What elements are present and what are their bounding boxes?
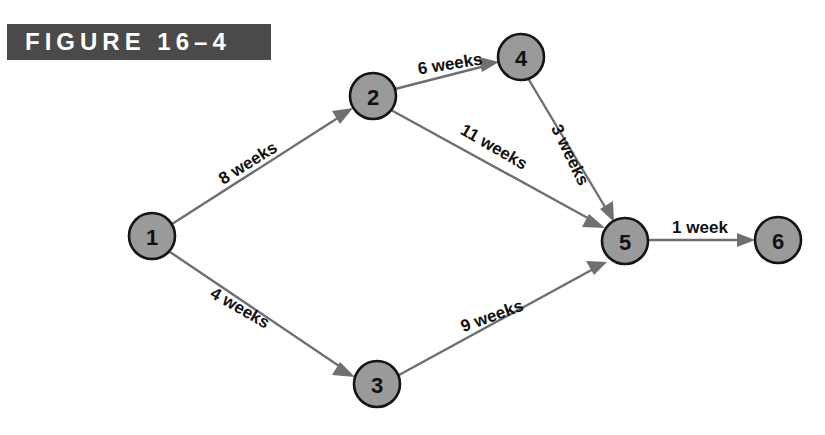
node-1[interactable]: 1 bbox=[129, 213, 175, 259]
edge-1-2 bbox=[172, 108, 353, 224]
node-6[interactable]: 6 bbox=[755, 217, 801, 263]
edge-1-2-line bbox=[172, 114, 344, 224]
node-3-label: 3 bbox=[371, 373, 383, 398]
node-2[interactable]: 2 bbox=[350, 73, 396, 119]
node-4[interactable]: 4 bbox=[498, 34, 544, 80]
figure-banner-label: FIGURE 16–4 bbox=[25, 30, 231, 54]
edge-3-5-arrowhead bbox=[586, 261, 607, 275]
figure-root: 8 weeks 6 weeks 11 weeks 3 weeks 4 weeks… bbox=[0, 0, 825, 435]
node-5[interactable]: 5 bbox=[602, 218, 648, 264]
node-3[interactable]: 3 bbox=[354, 361, 400, 407]
node-6-label: 6 bbox=[772, 229, 784, 254]
node-2-label: 2 bbox=[367, 85, 379, 110]
network-diagram: 8 weeks 6 weeks 11 weeks 3 weeks 4 weeks… bbox=[0, 0, 825, 435]
node-1-label: 1 bbox=[146, 225, 158, 250]
edge-label-1-2: 8 weeks bbox=[215, 138, 280, 189]
node-5-label: 5 bbox=[619, 230, 631, 255]
edge-label-1-3: 4 weeks bbox=[207, 283, 273, 332]
edge-1-2-arrowhead bbox=[332, 108, 353, 124]
node-4-label: 4 bbox=[515, 46, 528, 71]
figure-banner: FIGURE 16–4 bbox=[7, 24, 271, 60]
edge-label-4-5: 3 weeks bbox=[547, 122, 593, 189]
edge-label-3-5: 9 weeks bbox=[458, 296, 526, 336]
edge-label-group: 8 weeks 6 weeks 11 weeks 3 weeks 4 weeks… bbox=[207, 50, 728, 337]
edge-label-5-6: 1 week bbox=[672, 218, 728, 237]
edge-5-6-arrowhead bbox=[737, 233, 755, 247]
